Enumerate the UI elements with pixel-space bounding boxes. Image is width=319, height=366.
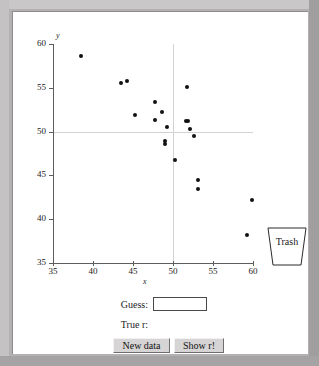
y-tick-label: 55 (16, 83, 46, 92)
window-bevel-right (309, 0, 319, 366)
guess-input[interactable] (153, 297, 207, 311)
data-point[interactable] (133, 113, 137, 117)
guess-label: Guess: (96, 299, 148, 310)
data-point[interactable] (153, 100, 157, 104)
data-point[interactable] (165, 125, 169, 129)
y-tick (49, 88, 54, 89)
data-point[interactable] (125, 79, 129, 83)
data-point[interactable] (163, 142, 167, 146)
x-tick-label: 55 (202, 267, 224, 276)
window-bevel-left (0, 0, 9, 366)
y-tick-label: 45 (16, 170, 46, 179)
y-tick (49, 132, 54, 133)
controls-panel: Guess: True r: New data Show r! (12, 297, 308, 354)
x-tick-label: 40 (82, 267, 104, 276)
data-point[interactable] (119, 81, 123, 85)
y-axis-line (53, 44, 54, 264)
guess-row: Guess: (12, 297, 308, 313)
y-tick-label: 60 (16, 39, 46, 48)
x-tick-label: 35 (42, 267, 64, 276)
y-tick (49, 175, 54, 176)
reference-line-horizontal (53, 132, 253, 133)
y-tick-label: 50 (16, 127, 46, 136)
data-point[interactable] (79, 54, 83, 58)
y-tick (49, 44, 54, 45)
data-point[interactable] (196, 187, 200, 191)
reference-line-vertical (173, 44, 174, 263)
new-data-button[interactable]: New data (113, 338, 170, 353)
data-point[interactable] (188, 127, 192, 131)
data-point[interactable] (196, 178, 200, 182)
y-axis-title: y (56, 32, 60, 40)
button-row: New data Show r! (12, 338, 308, 354)
y-tick (49, 219, 54, 220)
window-bevel-top (0, 0, 319, 9)
true-r-label: True r: (96, 319, 148, 330)
trash-label: Trash (264, 237, 310, 247)
y-tick-label: 40 (16, 214, 46, 223)
show-r-button[interactable]: Show r! (174, 338, 224, 353)
x-tick-label: 60 (242, 267, 264, 276)
trash-bin-icon[interactable]: Trash (264, 226, 310, 267)
x-tick-label: 45 (122, 267, 144, 276)
x-axis-line (53, 263, 253, 264)
data-point[interactable] (173, 158, 177, 162)
y-tick-label: 35 (16, 258, 46, 267)
data-point[interactable] (192, 134, 196, 138)
data-point[interactable] (153, 118, 157, 122)
data-point[interactable] (186, 119, 190, 123)
data-point[interactable] (245, 233, 249, 237)
applet-panel: 354045505560 354045505560 y x Trash Gues… (12, 11, 308, 354)
x-axis-title: x (143, 278, 147, 286)
window-bevel-bottom (0, 356, 319, 366)
data-point[interactable] (160, 110, 164, 114)
data-point[interactable] (185, 85, 189, 89)
data-point[interactable] (250, 198, 254, 202)
applet-window: 354045505560 354045505560 y x Trash Gues… (0, 0, 319, 366)
x-tick-label: 50 (162, 267, 184, 276)
